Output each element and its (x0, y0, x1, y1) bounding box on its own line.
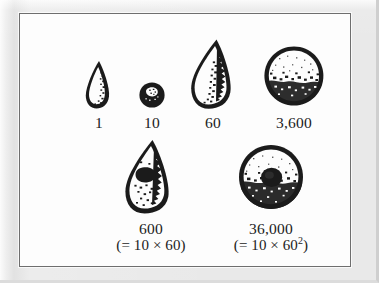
token-expression-label: (= 10 × 602) (208, 237, 334, 254)
scanned-figure-page: 1 (0, 0, 379, 283)
expression-suffix: ) (303, 237, 308, 253)
token-expression-label: (= 10 × 60) (92, 237, 210, 254)
clay-sphere-perforated-icon (208, 136, 334, 214)
clay-sphere-small-icon (120, 58, 184, 110)
figure-frame-border: 1 (19, 13, 351, 267)
token-item-36000: 36,000 (= 10 × 602) (208, 136, 334, 254)
figure-plate: 1 (20, 14, 350, 266)
token-value-label: 60 (176, 114, 250, 131)
token-value-label: 10 (120, 114, 184, 131)
token-item-60: 60 (176, 36, 250, 131)
clay-cone-large-icon (176, 36, 250, 110)
clay-cone-perforated-icon (92, 136, 210, 214)
clay-sphere-large-icon (248, 36, 340, 110)
token-item-10: 10 (120, 58, 184, 131)
token-value-label: 36,000 (208, 220, 334, 237)
token-value-label: 600 (92, 220, 210, 237)
expression-prefix: (= 10 × 60 (234, 237, 298, 253)
token-item-600: 600 (= 10 × 60) (92, 136, 210, 254)
token-item-3600: 3,600 (248, 36, 340, 131)
token-value-label: 3,600 (248, 114, 340, 131)
